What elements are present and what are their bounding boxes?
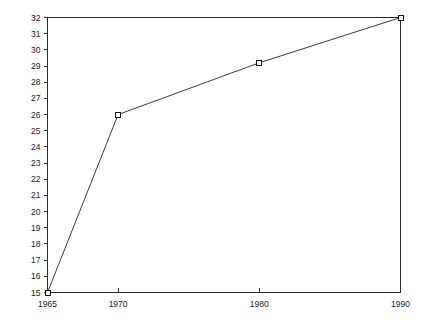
y-tick-label: 27 [31,93,41,103]
y-tick-label: 19 [31,223,41,233]
chart-axes [48,18,401,293]
y-tick-label: 23 [31,158,41,168]
data-point-markers [45,15,403,295]
y-tick-label: 18 [31,239,41,249]
y-tick-label: 26 [31,110,41,120]
y-tick-label: 16 [31,271,41,281]
y-tick-label: 22 [31,174,41,184]
y-tick-label: 24 [31,142,41,152]
line-chart: 151617181920212223242526272829303132 196… [0,0,441,322]
data-point-marker [257,60,262,65]
y-tick-label: 30 [31,45,41,55]
data-point-marker [116,112,121,117]
y-tick-label: 25 [31,126,41,136]
y-tick-label: 29 [31,61,41,71]
y-tick-label: 15 [31,288,41,298]
y-tick-label: 21 [31,190,41,200]
series-line [48,18,401,293]
y-tick-label: 20 [31,207,41,217]
data-series [48,18,401,293]
y-tick-label: 31 [31,29,41,39]
y-tick-label: 28 [31,77,41,87]
chart-canvas: 151617181920212223242526272829303132 196… [0,0,441,322]
x-tick-label: 1970 [109,299,128,309]
x-axis-ticks: 1965197019801990 [38,288,410,309]
data-point-marker [398,15,403,20]
x-tick-label: 1965 [38,299,57,309]
x-tick-label: 1980 [250,299,269,309]
data-point-marker [45,290,50,295]
x-tick-label: 1990 [391,299,410,309]
y-tick-label: 17 [31,255,41,265]
y-axis-ticks: 151617181920212223242526272829303132 [31,13,47,298]
y-tick-label: 32 [31,13,41,23]
